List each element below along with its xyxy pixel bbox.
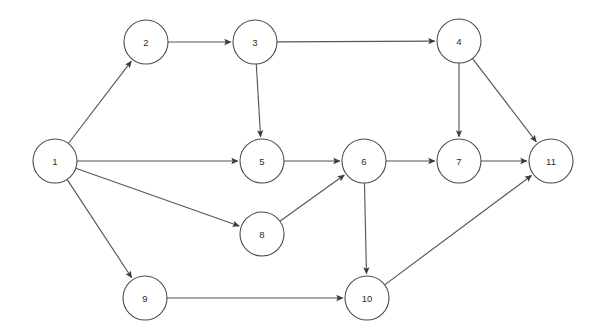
node-8[interactable]: 8 xyxy=(240,212,284,256)
node-label-11: 11 xyxy=(546,156,556,167)
directed-graph-diagram: 1234567891011 xyxy=(0,0,606,332)
node-label-2: 2 xyxy=(143,37,148,48)
node-label-8: 8 xyxy=(259,229,264,240)
node-1[interactable]: 1 xyxy=(33,139,77,183)
node-label-6: 6 xyxy=(361,156,366,167)
node-4[interactable]: 4 xyxy=(437,19,481,63)
node-5[interactable]: 5 xyxy=(240,139,284,183)
node-9[interactable]: 9 xyxy=(123,276,167,320)
node-label-7: 7 xyxy=(456,156,461,167)
diagram-background xyxy=(0,0,606,332)
node-label-10: 10 xyxy=(362,293,373,304)
node-6[interactable]: 6 xyxy=(342,139,386,183)
node-11[interactable]: 11 xyxy=(529,139,573,183)
edge-3-to-4 xyxy=(277,41,435,42)
node-label-5: 5 xyxy=(259,156,264,167)
node-label-3: 3 xyxy=(252,37,257,48)
node-label-1: 1 xyxy=(52,156,57,167)
node-label-4: 4 xyxy=(456,36,461,47)
node-3[interactable]: 3 xyxy=(233,20,277,64)
node-7[interactable]: 7 xyxy=(437,139,481,183)
node-label-9: 9 xyxy=(142,293,147,304)
node-2[interactable]: 2 xyxy=(124,20,168,64)
node-10[interactable]: 10 xyxy=(345,276,389,320)
